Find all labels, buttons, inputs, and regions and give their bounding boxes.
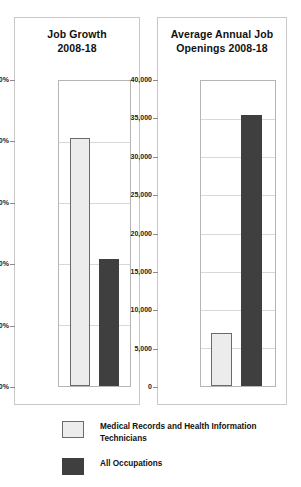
bar-all-occupations-job-growth	[99, 259, 119, 386]
y-tick-label-0: 40,000	[131, 75, 152, 84]
y-tick-mark-4	[10, 326, 15, 327]
chart-panel-job-openings: Average Annual Job Openings 2008-18 40,0…	[157, 17, 287, 405]
y-tick-mark-3	[153, 195, 158, 196]
bar-medical-records-job-openings	[211, 333, 232, 386]
y-tick-label-2: 30,000	[131, 152, 152, 161]
bar-all-occupations-job-openings	[241, 115, 262, 386]
legend-swatch-light	[62, 421, 84, 438]
y-axis-job-growth: 25.0% 20.0% 15.0% 10.0% 5.0%	[15, 80, 58, 387]
y-tick-mark-8	[153, 387, 158, 388]
figure-root: Job Growth 2008-18 25.0% 20.0% 15.0% 10.…	[0, 0, 301, 487]
chart-panel-job-growth: Job Growth 2008-18 25.0% 20.0% 15.0% 10.…	[14, 17, 140, 405]
y-tick-label-2: 15.0%	[0, 198, 9, 207]
y-tick-label-6: 10,000	[131, 305, 152, 314]
bar-group-job-openings	[201, 81, 275, 386]
y-tick-mark-1	[10, 141, 15, 142]
y-tick-label-5: 0.0%	[0, 382, 9, 391]
y-tick-mark-2	[10, 203, 15, 204]
y-tick-mark-1	[153, 118, 158, 119]
y-tick-mark-2	[153, 157, 158, 158]
y-tick-label-3: 25,000	[131, 190, 152, 199]
plot-area-job-openings	[200, 80, 276, 387]
y-tick-label-4: 20,000	[131, 229, 152, 238]
y-tick-mark-5	[10, 387, 15, 388]
y-tick-mark-7	[153, 349, 158, 350]
y-tick-mark-3	[10, 264, 15, 265]
bar-group-job-growth	[59, 81, 130, 386]
y-tick-label-0: 25.0%	[0, 75, 9, 84]
y-tick-mark-0	[153, 80, 158, 81]
y-tick-mark-0	[10, 80, 15, 81]
chart-title-job-growth: Job Growth 2008-18	[15, 28, 139, 55]
chart-title-job-openings: Average Annual Job Openings 2008-18	[158, 28, 286, 55]
chart-panels: Job Growth 2008-18 25.0% 20.0% 15.0% 10.…	[0, 0, 301, 412]
legend-label-medical-records: Medical Records and Health Information T…	[100, 421, 280, 444]
legend-item-medical-records: Medical Records and Health Information T…	[62, 421, 280, 444]
y-tick-label-1: 20.0%	[0, 136, 9, 145]
y-axis-job-openings: 40,000 35,000 30,000 25,000 20,000	[158, 80, 200, 387]
y-tick-label-7: 5,000	[134, 344, 152, 353]
y-tick-label-1: 35,000	[131, 113, 152, 122]
legend-label-all-occupations: All Occupations	[100, 458, 162, 470]
y-tick-mark-4	[153, 234, 158, 235]
y-tick-label-8: 0	[148, 382, 152, 391]
y-tick-label-4: 5.0%	[0, 321, 9, 330]
y-tick-mark-6	[153, 310, 158, 311]
chart-legend: Medical Records and Health Information T…	[14, 420, 287, 480]
y-tick-label-3: 10.0%	[0, 259, 9, 268]
y-tick-mark-5	[153, 272, 158, 273]
y-tick-label-5: 15,000	[131, 267, 152, 276]
legend-item-all-occupations: All Occupations	[62, 458, 162, 475]
legend-swatch-dark	[62, 458, 84, 475]
plot-area-job-growth	[58, 80, 131, 387]
bar-medical-records-job-growth	[70, 138, 90, 386]
